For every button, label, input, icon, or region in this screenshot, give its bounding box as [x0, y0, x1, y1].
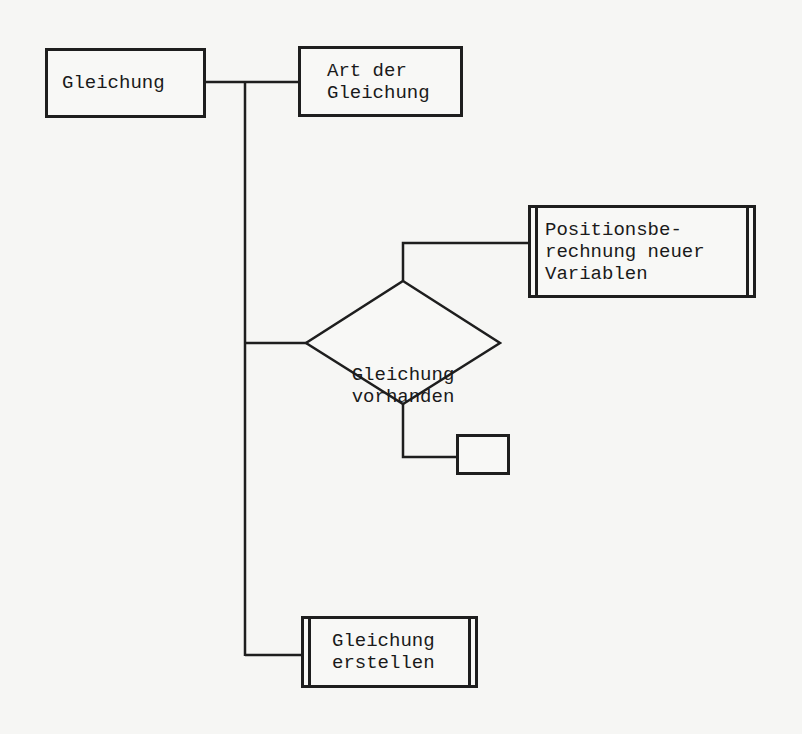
node-gleichung-label: Gleichung: [62, 72, 165, 94]
connector-diamond-position: [403, 243, 530, 281]
node-positionsberechnung[interactable]: Positionsbe- rechnung neuer Variablen: [528, 205, 756, 298]
node-gleichung-vorhanden-label: Gleichung vorhanden: [306, 364, 500, 408]
node-empty-box[interactable]: [456, 434, 510, 475]
diagram-canvas: Gleichung Art der Gleichung Positionsbe-…: [0, 0, 802, 734]
node-gleichung-erstellen[interactable]: Gleichung erstellen: [301, 616, 478, 688]
node-gleichung[interactable]: Gleichung: [45, 48, 206, 118]
node-positionsberechnung-label: Positionsbe- rechnung neuer Variablen: [545, 219, 705, 285]
node-art-der-gleichung-label: Art der Gleichung: [327, 60, 430, 104]
node-art-der-gleichung[interactable]: Art der Gleichung: [298, 46, 463, 117]
node-gleichung-vorhanden[interactable]: Gleichung vorhanden: [306, 320, 500, 452]
node-gleichung-erstellen-label: Gleichung erstellen: [332, 630, 435, 674]
